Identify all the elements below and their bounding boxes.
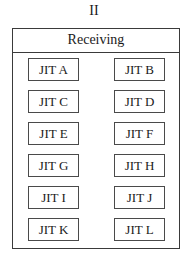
figure-label: II [0, 3, 188, 19]
jit-box: JIT D [114, 90, 165, 113]
jit-box: JIT B [114, 58, 165, 81]
jit-box: JIT E [28, 122, 79, 145]
receiving-panel: Receiving JIT A JIT B JIT C JIT D JIT E … [12, 28, 180, 249]
jit-box: JIT I [28, 186, 79, 209]
jit-box: JIT C [28, 90, 79, 113]
panel-title: Receiving [13, 29, 179, 53]
jit-box: JIT L [114, 218, 165, 241]
jit-box: JIT A [28, 58, 79, 81]
jit-box: JIT H [114, 154, 165, 177]
jit-box: JIT K [28, 218, 79, 241]
jit-box: JIT F [114, 122, 165, 145]
jit-box: JIT J [114, 186, 165, 209]
jit-box: JIT G [28, 154, 79, 177]
